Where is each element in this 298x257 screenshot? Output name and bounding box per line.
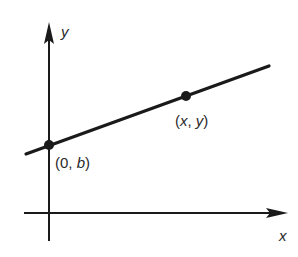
x-axis-label: x [279, 228, 287, 243]
general-point [181, 91, 191, 101]
y-axis-label: y [61, 24, 69, 39]
y-intercept-point [44, 140, 54, 150]
general-point-label: (x, y) [175, 113, 208, 128]
diagram-canvas [0, 0, 298, 257]
line-diagram: y x (0, b) (x, y) [0, 0, 298, 257]
y-intercept-label: (0, b) [55, 155, 90, 170]
sloped-line [26, 66, 269, 154]
